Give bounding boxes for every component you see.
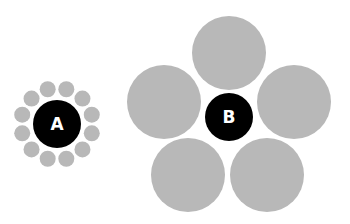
surround-circle-small xyxy=(40,81,56,97)
figure-b: B xyxy=(127,16,331,212)
surround-circle-large xyxy=(151,138,225,212)
surround-circle-small xyxy=(74,141,90,157)
surround-circle-small xyxy=(24,141,40,157)
surround-circle-small xyxy=(58,151,74,167)
surround-circle-small xyxy=(24,91,40,107)
surround-circle-large xyxy=(127,65,201,139)
circle-label: A xyxy=(50,114,64,134)
surround-circle-large xyxy=(192,16,266,90)
surround-circle-small xyxy=(14,125,30,141)
ebbinghaus-diagram: A B xyxy=(0,0,350,224)
surround-circle-large xyxy=(230,138,304,212)
surround-circle-small xyxy=(84,107,100,123)
figure-a: A xyxy=(14,81,100,167)
surround-circle-small xyxy=(74,91,90,107)
circle-label: B xyxy=(223,107,236,127)
surround-circle-small xyxy=(14,107,30,123)
surround-circle-large xyxy=(257,65,331,139)
surround-circle-small xyxy=(58,81,74,97)
surround-circle-small xyxy=(84,125,100,141)
surround-circle-small xyxy=(40,151,56,167)
